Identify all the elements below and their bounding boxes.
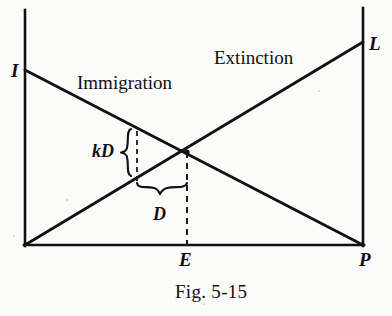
label-d-measure: D [153,205,166,223]
figure-caption: Fig. 5-15 [175,282,247,301]
label-extinction-curve: Extinction [214,48,293,67]
label-extinction-max: L [369,34,381,53]
extinction-line [25,42,363,245]
paper-speck [203,303,205,305]
label-immigration-curve: Immigration [77,73,172,92]
label-equilibrium: E [179,250,192,269]
figure-container: I L P E Immigration Extinction kD D Fig.… [0,0,392,316]
diagram-canvas [0,0,392,316]
immigration-line [25,70,363,245]
d-brace [137,183,187,194]
paper-speck [318,90,320,92]
label-immigration-intercept: I [11,61,18,80]
label-kd-measure: kD [92,142,114,160]
equilibrium-point-marker [184,149,189,154]
paper-speck [66,199,68,201]
kd-brace [121,129,131,176]
label-population-max: P [359,250,371,269]
paper-speck [13,235,15,237]
